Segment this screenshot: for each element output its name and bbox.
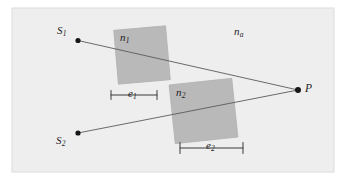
label-point-p: P — [305, 83, 312, 95]
label-refractive-index-n2: n2 — [176, 87, 185, 99]
source-point-s2 — [75, 130, 80, 135]
label-refractive-index-ambient: na — [234, 26, 243, 38]
label-source-s2: S2 — [56, 135, 65, 147]
label-source-s1: S1 — [57, 25, 66, 37]
source-point-s1 — [75, 38, 80, 43]
image-point-p — [295, 87, 301, 93]
label-extent-e2: e2 — [206, 140, 215, 152]
label-refractive-index-n1: n1 — [120, 32, 129, 44]
label-extent-e1: e1 — [128, 88, 137, 100]
figure-canvas — [0, 0, 344, 181]
optical-ray-diagram: S1 S2 P na n1 n2 e1 e2 — [0, 0, 344, 181]
